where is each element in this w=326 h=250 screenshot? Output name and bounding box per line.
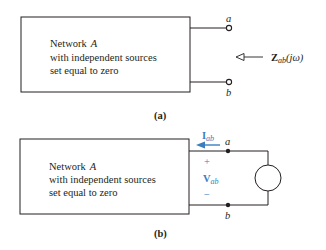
voltage-label: Vab [203,173,219,186]
current-label: Iab [202,130,214,143]
network-desc-a-line2: with independent sources [50,52,157,63]
network-desc-b-line3: set equal to zero [49,187,118,198]
caption-b: (b) [154,228,167,240]
caption-a: (a) [154,110,167,122]
terminal-b-label: b [226,87,231,98]
minus-sign: − [204,189,210,200]
impedance-arrow-icon [236,54,263,61]
network-label-a: NetworkA [50,38,98,49]
terminal-a-label-b: a [225,136,230,147]
plus-sign: + [204,156,210,167]
figure-b: NetworkA with independent sources set eq… [20,130,281,240]
terminal-b-label-b: b [225,210,230,221]
node-b-dot [226,203,230,207]
network-desc-a-line3: set equal to zero [50,65,119,76]
terminal-b-open [226,79,231,84]
network-label-b: NetworkA [49,161,97,172]
figure-a: NetworkA with independent sources set eq… [21,13,304,122]
terminal-a-label: a [226,13,231,24]
terminal-a-open [226,25,231,30]
impedance-label: Zab(jω) [271,52,304,65]
node-a-dot [226,149,230,153]
source-icon [255,165,281,191]
network-desc-b-line2: with independent sources [49,174,156,185]
circuit-diagram: NetworkA with independent sources set eq… [0,0,326,250]
